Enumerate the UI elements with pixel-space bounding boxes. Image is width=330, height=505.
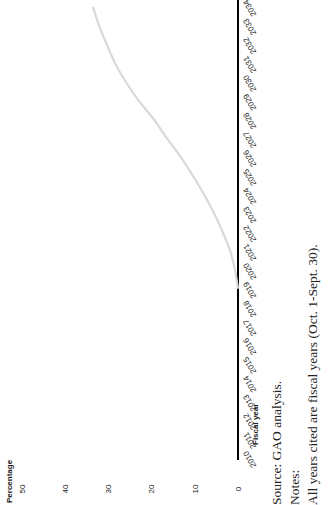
notes-label: Notes: — [286, 0, 304, 505]
y-axis-title: Percentage — [5, 459, 14, 503]
x-tick-label: 2020 — [241, 261, 258, 281]
x-tick-label: 2022 — [241, 223, 258, 243]
rotated-figure: 01020304050 2010201120122013201420152016… — [0, 0, 330, 505]
x-tick-label: 2023 — [241, 204, 258, 224]
y-tick-label: 50 — [18, 484, 27, 493]
x-axis: 2010201120122013201420152016201720182019… — [238, 0, 258, 469]
x-tick-label: 2018 — [241, 298, 258, 318]
y-tick-label: 10 — [191, 484, 200, 493]
y-tick-label: 40 — [61, 484, 70, 493]
y-tick-label: 30 — [104, 484, 113, 493]
figure-notes: Source: GAO analysis. Notes: All years c… — [268, 0, 322, 505]
x-tick-label: 2031 — [241, 54, 258, 74]
source-text: Source: GAO analysis. — [268, 0, 286, 505]
y-tick-label: 20 — [147, 484, 156, 493]
y-axis: 01020304050 — [18, 484, 244, 493]
x-tick-label: 2030 — [241, 73, 258, 93]
x-tick-label: 2034 — [241, 0, 258, 18]
x-tick-label: 2014 — [241, 374, 258, 394]
x-tick-label: 2029 — [241, 92, 258, 112]
x-axis-title: Fiscal year — [251, 404, 260, 445]
x-tick-label: 2028 — [241, 110, 258, 130]
x-tick-label: 2026 — [241, 148, 258, 168]
x-tick-label: 2032 — [241, 35, 258, 55]
x-tick-label: 2021 — [241, 242, 258, 262]
x-tick-label: 2024 — [241, 186, 258, 206]
line-chart: 01020304050 2010201120122013201420152016… — [0, 0, 265, 505]
x-tick-label: 2019 — [241, 280, 258, 300]
note-fiscal-years: All years cited are fiscal years (Oct. 1… — [304, 0, 322, 505]
percentage-line — [93, 7, 238, 289]
x-tick-label: 2015 — [241, 355, 258, 375]
x-tick-label: 2027 — [241, 129, 258, 149]
x-tick-label: 2025 — [241, 167, 258, 187]
x-tick-label: 2033 — [241, 16, 258, 36]
x-tick-label: 2017 — [241, 317, 258, 337]
y-tick-label: 0 — [234, 486, 243, 491]
x-tick-label: 2016 — [241, 336, 258, 356]
x-tick-label: 2010 — [241, 449, 258, 469]
